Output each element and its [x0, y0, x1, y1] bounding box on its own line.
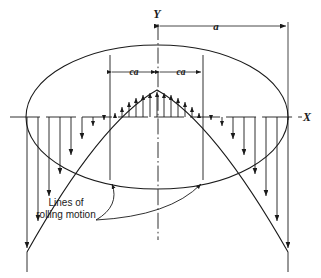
lines-of-rolling-motion — [27, 90, 288, 252]
figure-container: a ca ca — [0, 0, 321, 278]
annotation-line-1: Lines of — [48, 197, 83, 208]
diagram-svg: a ca ca — [0, 0, 321, 278]
leader-left — [96, 184, 114, 220]
up-arrow-group — [115, 92, 199, 117]
dimension-a-label: a — [213, 20, 219, 32]
dimension-ca-right-label: ca — [177, 67, 186, 77]
annotation-line-2: rolling motion — [36, 209, 95, 220]
dimension-ca-right: ca — [160, 67, 201, 77]
arrow-tails — [27, 252, 288, 272]
rolling-motion-curve — [27, 90, 288, 252]
stick-region-boundaries — [110, 55, 203, 180]
x-axis-label: X — [302, 110, 312, 124]
y-axis-label: Y — [153, 7, 162, 21]
dimension-ca-left-label: ca — [130, 67, 139, 77]
dimension-ca-left: ca — [112, 67, 156, 77]
down-arrow-group-left — [27, 117, 104, 248]
down-arrow-group-right — [211, 117, 288, 248]
